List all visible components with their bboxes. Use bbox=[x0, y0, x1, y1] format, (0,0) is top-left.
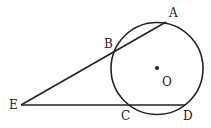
center-label-o: O bbox=[162, 75, 172, 89]
point-label-a: A bbox=[168, 6, 178, 20]
point-label-c: C bbox=[121, 109, 130, 123]
point-label-b: B bbox=[104, 37, 113, 51]
secant-line-ea bbox=[21, 22, 166, 105]
geometry-diagram: A B C D E O bbox=[0, 0, 211, 128]
point-label-e: E bbox=[9, 98, 18, 112]
point-label-d: D bbox=[183, 109, 193, 123]
center-point-o bbox=[155, 66, 159, 70]
